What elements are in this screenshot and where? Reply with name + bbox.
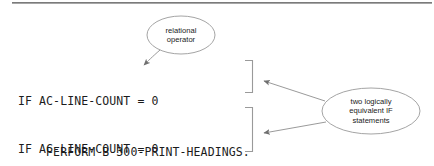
callout-line: statements (349, 116, 392, 125)
cobol-if-statement-figure: IF AC-LINE-COUNT = 0 PERFORM B-300-PRINT… (0, 0, 434, 166)
callout-line: equivalent IF (349, 106, 392, 115)
horizontal-rule (12, 2, 432, 4)
callout-line: operator (166, 35, 197, 44)
equivalent-if-leader-line-bottom (264, 122, 326, 133)
callout-line: relational (166, 26, 197, 35)
equivalent-if-callout-text: two logically equivalent IF statements (323, 88, 419, 134)
equivalent-if-leader-line-top (264, 81, 325, 101)
code-block-if-endif: IF AC-LINE-COUNT = 0 PERFORM B-300-PRINT… (18, 107, 243, 166)
relational-operator-callout-text: relational operator (147, 16, 215, 54)
callout-line: two logically (349, 97, 392, 106)
code-line: IF AC-LINE-COUNT = 0 (18, 141, 243, 158)
